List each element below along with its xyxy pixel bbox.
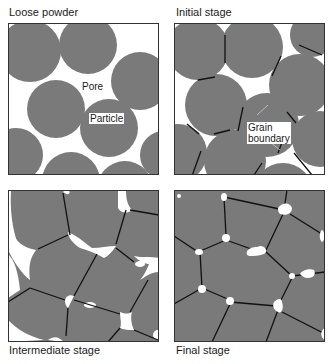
grain-callout-line1: Grain [248,122,272,133]
panel-label-loose-powder: Loose powder [9,6,78,18]
panel-initial-stage: Grain boundary [174,23,325,175]
panel-loose-powder: Pore Particle [8,23,159,175]
panel-label-final-stage: Final stage [176,344,230,356]
pore-callout: Pore [81,81,104,92]
intermediate-stage-diagram [8,190,159,342]
loose-powder-diagram [8,23,159,175]
panel-label-initial-stage: Initial stage [176,6,232,18]
panel-label-intermediate-stage: Intermediate stage [9,344,100,356]
grain-boundary-callout: Grain boundary [247,122,291,144]
final-stage-diagram [174,190,325,342]
initial-stage-diagram [174,23,325,175]
grain-callout-line2: boundary [248,133,290,144]
panel-intermediate-stage [8,190,159,342]
panel-final-stage [174,190,325,342]
particle-callout: Particle [89,113,124,124]
